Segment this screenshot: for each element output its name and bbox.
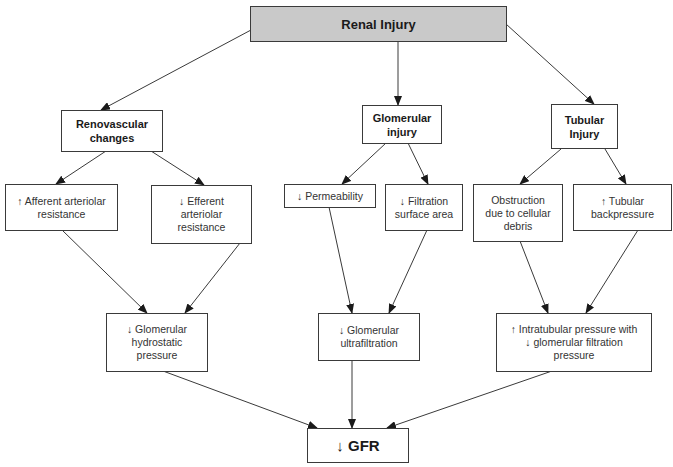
- node-obstruction: Obstruction due to cellular debris: [473, 184, 563, 242]
- node-renal-injury: Renal Injury: [250, 6, 507, 42]
- edge-root-renovascular: [101, 30, 251, 110]
- node-afferent-resistance: ↑ Afferent arteriolar resistance: [5, 184, 118, 231]
- node-efferent-resistance: ↓ Efferent arteriolar resistance: [151, 185, 252, 244]
- edge-tubular-obstruction: [520, 149, 561, 184]
- node-gfr: ↓ GFR: [307, 428, 409, 463]
- edge-root-tubular: [506, 24, 594, 104]
- node-tubular-backpressure: ↑ Tubular backpressure: [573, 184, 672, 231]
- edges-layer: [0, 0, 673, 467]
- node-glomerular-ultrafiltration: ↓ Glomerular ultrafiltration: [318, 313, 420, 361]
- node-glomerular-injury: Glomerular injury: [362, 105, 442, 144]
- edge-glomerular-permeability: [342, 143, 386, 184]
- edge-tubular-backpressure: [605, 149, 626, 184]
- edge-afferent-hydrostatic: [62, 230, 147, 313]
- node-intratubular-pressure: ↑ Intratubular pressure with ↓ glomerula…: [496, 313, 652, 372]
- edge-hydrostatic-gfr: [163, 371, 317, 428]
- edge-renovascular-efferent: [151, 151, 204, 185]
- edge-renovascular-afferent: [56, 151, 106, 184]
- edge-filtration-ultrafiltration: [389, 230, 427, 313]
- edge-glomerular-filtration: [408, 143, 428, 184]
- node-permeability: ↓ Permeability: [284, 184, 376, 208]
- edge-permeability-ultrafiltration: [329, 207, 352, 313]
- edge-backpressure-intratubular: [586, 230, 638, 313]
- node-filtration-surface-area: ↓ Filtration surface area: [385, 184, 463, 231]
- node-tubular-injury: Tubular Injury: [551, 104, 618, 149]
- edge-efferent-hydrostatic: [185, 243, 240, 313]
- edge-obstruction-intratubular: [520, 241, 548, 313]
- node-renovascular-changes: Renovascular changes: [61, 110, 163, 152]
- node-glomerular-hydrostatic-pressure: ↓ Glomerular hydrostatic pressure: [106, 313, 208, 372]
- edge-intratubular-gfr: [387, 371, 552, 428]
